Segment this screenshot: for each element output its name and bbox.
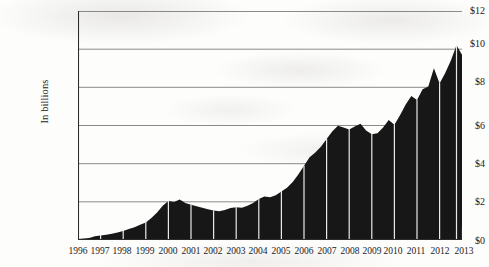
x-tick-label-1999: 1999 (133, 246, 157, 256)
x-tick-label-1998: 1998 (110, 246, 134, 256)
x-tick-label-2005: 2005 (269, 246, 293, 256)
x-tick-label-2012: 2012 (428, 246, 452, 256)
x-tick-label-2007: 2007 (315, 246, 339, 256)
plot-area (78, 11, 462, 240)
x-tick-label-2010: 2010 (381, 246, 405, 256)
x-tick-label-2000: 2000 (156, 246, 180, 256)
x-tick-label-2001: 2001 (179, 246, 203, 256)
chart-canvas (78, 11, 462, 240)
x-tick-label-2003: 2003 (224, 246, 248, 256)
area-series-value (78, 45, 462, 239)
x-tick-label-1997: 1997 (88, 246, 112, 256)
y-axis-title: In billions (39, 52, 50, 152)
x-tick-label-2006: 2006 (292, 246, 316, 256)
x-tick-label-2013: 2013 (452, 246, 476, 256)
x-tick-label-2002: 2002 (201, 246, 225, 256)
chart-figure: In billions $12 $10 $8 $6 $4 $2 $0 (0, 0, 489, 267)
x-tick-label-2008: 2008 (338, 246, 362, 256)
x-tick-label-1996: 1996 (66, 246, 90, 256)
x-tick-label-2004: 2004 (246, 246, 270, 256)
x-tick-label-2011: 2011 (404, 246, 428, 256)
